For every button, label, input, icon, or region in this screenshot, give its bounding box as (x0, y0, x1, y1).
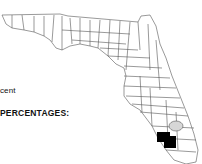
lake-okeechobee (169, 121, 183, 131)
text-fragment-percentages-heading: PERCENTAGES: (0, 108, 69, 118)
text-fragment-percent: cent (0, 86, 16, 95)
florida-county-map (0, 0, 202, 164)
highlighted-county (157, 132, 176, 148)
